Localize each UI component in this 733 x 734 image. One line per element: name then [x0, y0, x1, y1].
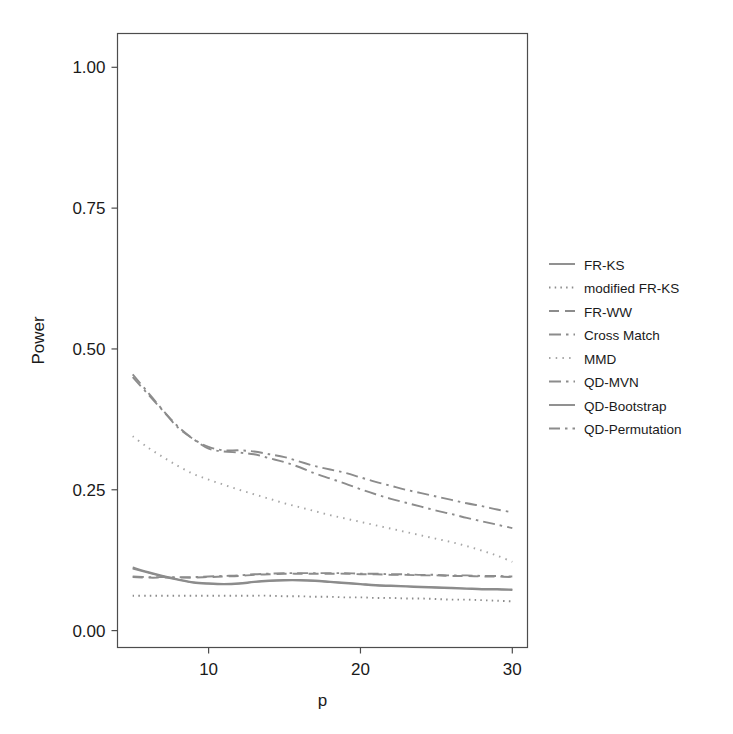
y-tick-label: 0.75 — [72, 199, 105, 218]
figure-background — [0, 0, 733, 734]
y-tick-label: 0.25 — [72, 481, 105, 500]
legend-label-qd-permutation: QD-Permutation — [584, 422, 682, 437]
x-tick-label: 20 — [351, 660, 370, 679]
y-tick-label: 1.00 — [72, 58, 105, 77]
power-vs-dimension-chart: 0.000.250.500.751.00 102030 Power p FR-K… — [0, 0, 733, 734]
x-tick-label: 30 — [503, 660, 522, 679]
legend-label-modified-fr-ks: modified FR-KS — [584, 281, 679, 296]
x-axis-title: p — [318, 691, 327, 710]
y-tick-label: 0.50 — [72, 340, 105, 359]
legend-label-fr-ww: FR-WW — [584, 305, 632, 320]
legend-label-qd-mvn: QD-MVN — [584, 375, 639, 390]
y-axis-title: Power — [29, 316, 48, 365]
legend-label-qd-bootstrap: QD-Bootstrap — [584, 399, 667, 414]
legend-label-mmd: MMD — [584, 352, 616, 367]
legend-label-fr-ks: FR-KS — [584, 258, 625, 273]
legend-label-cross-match: Cross Match — [584, 328, 660, 343]
x-tick-label: 10 — [199, 660, 218, 679]
y-tick-label: 0.00 — [72, 622, 105, 641]
